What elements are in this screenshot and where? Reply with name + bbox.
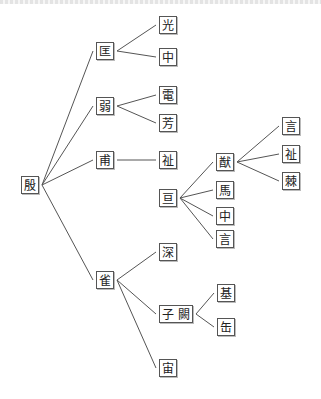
tree-node: 猷: [216, 153, 234, 171]
tree-edge: [117, 95, 156, 106]
tree-node: 弱: [96, 97, 114, 115]
tree-edge: [237, 162, 279, 181]
tree-node: 言: [282, 117, 300, 135]
tree-node: 基: [217, 284, 235, 302]
tree-node: 言: [216, 230, 234, 248]
tree-node: 中: [159, 48, 177, 66]
tree-node: 馬: [216, 181, 234, 199]
tree-node: 缶: [217, 318, 235, 336]
tree-edge: [180, 198, 213, 239]
tree-node: 匡: [96, 42, 114, 60]
tree-edge: [237, 154, 279, 162]
tree-edge: [117, 106, 156, 123]
tree-edge: [117, 280, 156, 368]
tree-edge: [180, 198, 213, 216]
tree-node: 宙: [159, 359, 177, 377]
tree-node: 祉: [282, 145, 300, 163]
tree-edge: [196, 314, 214, 327]
tree-node: 電: [159, 86, 177, 104]
tree-node: 亘: [159, 189, 177, 207]
tree-node: 祉: [159, 151, 177, 169]
tree-edge: [117, 280, 156, 314]
tree-node: 中: [216, 207, 234, 225]
tree-node: 深: [159, 243, 177, 261]
tree-node: 光: [159, 16, 177, 34]
tree-edge: [42, 185, 93, 280]
tree-edge: [117, 51, 156, 57]
tree-node: 殷: [21, 176, 39, 194]
tree-node: 棘: [282, 172, 300, 190]
tree-edge: [237, 126, 279, 162]
tree-edge: [180, 162, 213, 198]
tree-node: 芳: [159, 114, 177, 132]
tree-node: 甫: [96, 151, 114, 169]
tree-edge: [117, 252, 156, 280]
tree-edge: [180, 190, 213, 198]
tree-node: 雀: [96, 271, 114, 289]
tree-node: 子 闕: [159, 305, 193, 323]
tree-edge: [196, 293, 214, 314]
tree-edge: [117, 25, 156, 51]
